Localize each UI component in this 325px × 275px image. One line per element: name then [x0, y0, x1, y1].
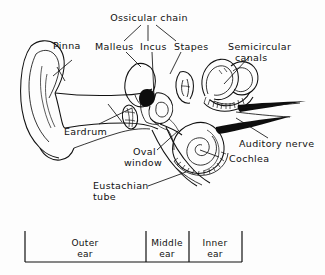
- label-semicircular-canals-line1: Semicircular: [228, 41, 291, 52]
- region-label-outer-ear-line1: Outer: [50, 238, 120, 249]
- eardrum: [121, 104, 140, 130]
- label-ossicular-chain: Ossicular chain: [99, 12, 199, 23]
- leader-ossicular-malleus: [124, 25, 141, 41]
- semicircular-canals: [202, 59, 258, 111]
- label-oval-window-line2: window: [124, 157, 162, 168]
- leader-malleus: [126, 52, 141, 67]
- label-cochlea: Cochlea: [229, 153, 269, 164]
- stapes: [176, 71, 193, 103]
- label-stapes: Stapes: [174, 41, 209, 52]
- ear-anatomy-diagram: Ossicular chain Pinna Malleus Incus Stap…: [0, 0, 325, 275]
- label-incus: Incus: [140, 41, 167, 52]
- leader-eustachian: [148, 172, 186, 186]
- label-auditory-nerve: Auditory nerve: [239, 138, 314, 149]
- label-pinna: Pinna: [53, 40, 81, 51]
- label-eustachian-tube-line1: Eustachian: [93, 180, 149, 191]
- label-malleus: Malleus: [95, 41, 134, 52]
- pinna-outline: [21, 41, 74, 160]
- leader-stapes: [170, 52, 181, 74]
- leader-ossicular-stapes: [156, 25, 176, 41]
- label-semicircular-canals-line2: canals: [235, 52, 268, 63]
- label-eardrum: Eardrum: [64, 126, 107, 137]
- leader-eardrum-tick: [108, 104, 122, 122]
- region-label-outer-ear-line2: ear: [50, 249, 120, 260]
- label-oval-window-line1: Oval: [133, 146, 156, 157]
- region-label-inner-ear-line2: ear: [180, 249, 250, 260]
- leader-pinna: [53, 60, 72, 76]
- region-label-inner-ear-line1: Inner: [180, 238, 250, 249]
- label-eustachian-tube-line2: tube: [93, 191, 116, 202]
- leader-eardrum: [99, 108, 132, 124]
